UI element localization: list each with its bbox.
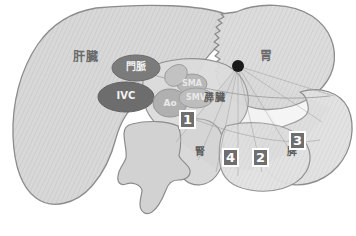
vessel-label-ivc: IVC [114, 91, 138, 101]
callout-box-2[interactable]: 2 [252, 148, 269, 167]
vertebra-shape [118, 122, 190, 214]
vessel-label-aorta: Ao [161, 99, 179, 108]
organ-label-liver: 肝臓 [73, 51, 98, 63]
organ-label-kidney: 腎 [195, 147, 206, 157]
vessel-label-portal-vein: 門脈 [124, 62, 148, 72]
callout-box-1[interactable]: 1 [179, 110, 196, 129]
organ-label-pancreas: 膵臓 [204, 93, 225, 103]
anatomy-illustration [0, 0, 356, 236]
diagram-canvas: 肝臓 胃 膵臓 腎 脾 門脈 IVC Ao SMA SMV 1 4 2 3 [0, 0, 356, 236]
organ-label-stomach: 胃 [260, 50, 273, 62]
callout-box-3[interactable]: 3 [289, 131, 306, 150]
vessel-label-smv: SMV [186, 94, 206, 102]
probe-origin-dot[interactable] [232, 60, 244, 72]
callout-box-4[interactable]: 4 [222, 148, 239, 167]
vessel-label-sma: SMA [182, 80, 202, 88]
